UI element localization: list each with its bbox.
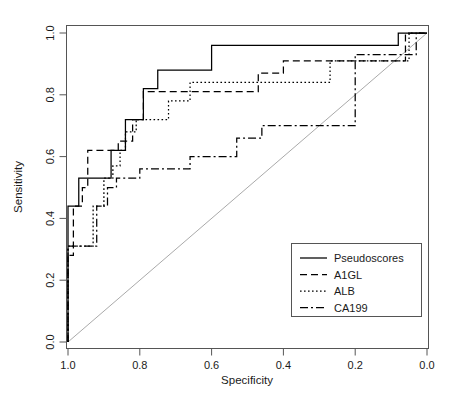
- legend-label-ca199: CA199: [334, 302, 368, 314]
- x-tick-label: 0.0: [419, 359, 434, 371]
- x-tick-label: 0.2: [348, 359, 363, 371]
- legend-label-a1gl: A1GL: [334, 269, 362, 281]
- x-tick-label: 0.6: [204, 359, 219, 371]
- y-axis-title: Sensitivity: [12, 161, 24, 213]
- y-tick-label: 0.8: [44, 87, 56, 102]
- x-tick-label: 0.4: [276, 359, 291, 371]
- y-tick-label: 1.0: [44, 25, 56, 40]
- roc-chart-canvas: 1.00.80.60.40.20.0 0.00.20.40.60.81.0 Sp…: [0, 0, 468, 406]
- legend-label-pseudoscores: Pseudoscores: [334, 252, 404, 264]
- y-tick-label: 0.6: [44, 149, 56, 164]
- x-tick-label: 1.0: [60, 359, 75, 371]
- y-tick-label: 0.0: [44, 334, 56, 349]
- legend-label-alb: ALB: [334, 285, 355, 297]
- legend: PseudoscoresA1GLALBCA199: [292, 244, 422, 317]
- x-tick-label: 0.8: [132, 359, 147, 371]
- x-axis-title: Specificity: [221, 374, 273, 386]
- roc-plot-figure: 1.00.80.60.40.20.0 0.00.20.40.60.81.0 Sp…: [0, 0, 468, 406]
- y-tick-label: 0.2: [44, 273, 56, 288]
- y-tick-label: 0.4: [44, 211, 56, 226]
